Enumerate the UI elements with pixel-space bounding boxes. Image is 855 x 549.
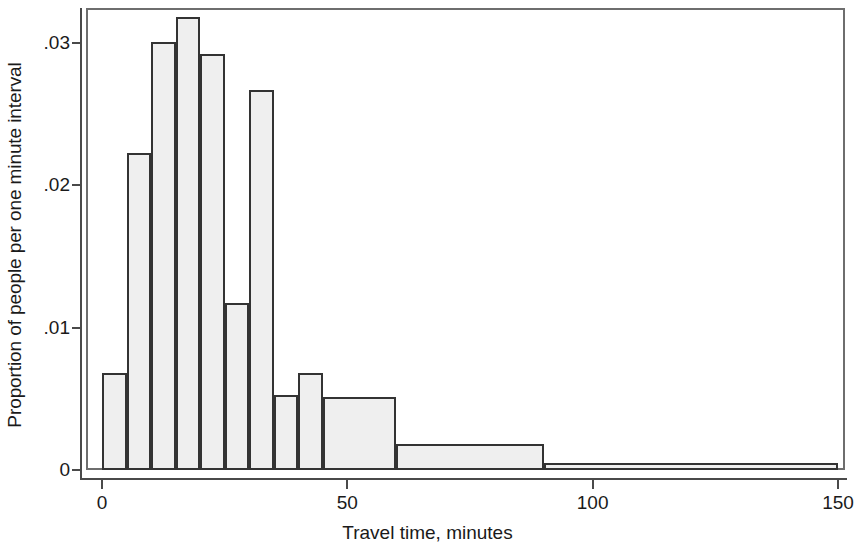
histogram-bar — [151, 42, 176, 470]
x-tick-label: 0 — [97, 492, 108, 514]
y-tick-label: .02 — [24, 174, 70, 196]
y-tick-mark — [72, 184, 80, 186]
histogram-bar — [396, 444, 543, 470]
y-tick-label: 0 — [24, 459, 70, 481]
x-tick-mark — [346, 480, 348, 489]
histogram-bar — [323, 397, 397, 470]
y-tick-mark — [72, 469, 80, 471]
x-axis-line — [80, 478, 847, 480]
histogram-bar — [249, 90, 274, 470]
histogram-bar — [225, 303, 250, 470]
x-axis-label: Travel time, minutes — [0, 522, 855, 544]
y-tick-label: .01 — [24, 317, 70, 339]
x-tick-label: 100 — [577, 492, 609, 514]
histogram-bar — [102, 373, 127, 470]
y-tick-mark — [72, 327, 80, 329]
y-tick-mark — [72, 42, 80, 44]
histogram-bar — [176, 17, 201, 470]
x-tick-mark — [837, 480, 839, 489]
y-axis-label: Proportion of people per one minute inte… — [0, 0, 30, 490]
y-axis-line — [80, 8, 82, 478]
histogram-bar — [200, 54, 225, 470]
histogram-bar — [127, 153, 152, 470]
histogram-bar — [298, 373, 323, 470]
histogram-figure: 0.01.02.03 050100150 Proportion of peopl… — [0, 0, 855, 549]
x-tick-mark — [101, 480, 103, 489]
x-tick-label: 150 — [822, 492, 854, 514]
histogram-bar — [274, 395, 299, 470]
y-tick-label: .03 — [24, 32, 70, 54]
x-tick-label: 50 — [337, 492, 358, 514]
histogram-bar — [544, 463, 838, 470]
x-tick-mark — [592, 480, 594, 489]
